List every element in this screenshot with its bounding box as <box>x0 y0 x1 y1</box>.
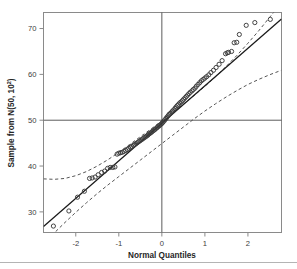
y-axis-title: Sample from N(50, 102) <box>6 78 16 167</box>
y-tick-label: 70 <box>28 24 36 33</box>
y-axis-title-base: Sample from N(50, 10 <box>7 84 16 168</box>
y-tick-label: 30 <box>28 208 36 217</box>
x-axis-title: Normal Quantiles <box>128 251 196 260</box>
y-axis-title-tail: ) <box>7 78 16 81</box>
y-tick-label: 50 <box>28 116 36 125</box>
qq-plot-figure: 3040506070 -2-1012 Normal Quantiles Samp… <box>0 0 297 269</box>
svg-text:Sample from N(50, 102): Sample from N(50, 102) <box>6 78 16 167</box>
x-tick-label: -1 <box>115 239 122 248</box>
x-tick-label: 0 <box>160 239 164 248</box>
x-tick-label: 1 <box>203 239 207 248</box>
y-tick-label: 60 <box>28 70 36 79</box>
x-tick-label: -2 <box>72 239 79 248</box>
x-tick-label: 2 <box>246 239 250 248</box>
y-tick-label: 40 <box>28 162 36 171</box>
